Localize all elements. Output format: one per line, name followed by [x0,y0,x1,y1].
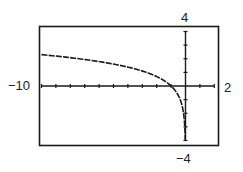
graph-plot [0,0,243,172]
y-min-label: −4 [176,152,191,165]
y-max-label: 4 [181,11,188,24]
x-min-label: −10 [8,79,30,92]
function-curve [42,55,186,141]
x-max-label: 2 [224,81,231,94]
